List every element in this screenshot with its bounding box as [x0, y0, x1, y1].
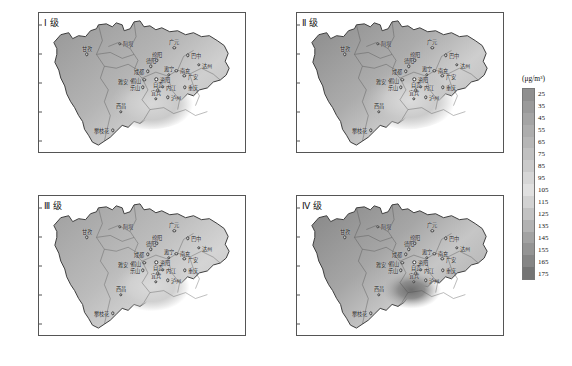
city-label: 达州: [460, 244, 470, 251]
panel-1: Ⅰ 级: [0, 0, 258, 183]
city-dot: [111, 312, 114, 315]
y-tick: 30°: [38, 78, 39, 87]
panel-4-plot: Ⅳ 级: [296, 195, 504, 336]
city-dot: [85, 53, 88, 56]
x-tick: 100°: [338, 152, 352, 153]
city-label: 成都: [134, 68, 144, 75]
city-dot: [172, 229, 175, 232]
x-tick: 102°: [368, 152, 382, 153]
city-label: 内江: [166, 267, 176, 274]
city-marker: 西昌: [377, 110, 380, 113]
city-label: 西昌: [374, 285, 384, 292]
city-label: 广安: [446, 72, 456, 79]
city-label: 重庆: [446, 84, 456, 91]
city-marker: 宜宾: [154, 280, 157, 283]
city-label: 巴中: [449, 52, 459, 59]
city-dot: [143, 261, 146, 264]
city-marker: 达州: [455, 63, 458, 66]
city-marker: 南充: [433, 69, 436, 72]
city-dot: [186, 237, 189, 240]
city-dot: [404, 253, 407, 256]
x-tick: 100°: [338, 335, 352, 336]
y-tick: 34°N: [38, 203, 39, 212]
figure-grid: Ⅰ 级: [0, 0, 572, 366]
colorbar-tick: 155: [538, 246, 549, 254]
city-label: 达州: [460, 61, 470, 68]
city-marker: 乐山: [141, 86, 144, 89]
city-label: 泸州: [171, 94, 181, 101]
colorbar-tick: 135: [538, 222, 549, 230]
city-label: 眉山: [131, 76, 141, 83]
city-marker: 眉山: [401, 261, 404, 264]
city-label: 泸州: [171, 277, 181, 284]
y-tick: 34°N: [38, 20, 39, 29]
city-dot: [399, 269, 402, 272]
city-label: 重庆: [188, 84, 198, 91]
city-label: 巴中: [191, 235, 201, 242]
city-label: 攀枝花: [94, 310, 109, 317]
city-dot: [401, 261, 404, 264]
city-marker: 眉山: [143, 261, 146, 264]
colorbar-swatch: [523, 160, 534, 172]
city-marker: 泸州: [166, 279, 169, 282]
colorbar-tick: 165: [538, 258, 549, 266]
city-dot: [146, 70, 149, 73]
x-tick: 110°E: [227, 335, 246, 336]
city-dot: [441, 257, 444, 260]
city-dot: [149, 65, 152, 68]
colorbar-swatch: [523, 267, 534, 279]
city-label: 巴中: [191, 52, 201, 59]
city-dot: [197, 246, 200, 249]
city-marker: 西昌: [119, 110, 122, 113]
city-label: 广元: [169, 38, 179, 45]
panel-3: Ⅲ 级: [0, 183, 258, 366]
city-label: 成都: [392, 68, 402, 75]
city-marker: 泸州: [424, 96, 427, 99]
city-label: 乐山: [130, 84, 140, 91]
city-marker: 广元: [430, 46, 433, 49]
city-label: 甘孜: [82, 228, 92, 235]
city-label: 广元: [427, 221, 437, 228]
city-marker: 重庆: [183, 269, 186, 272]
colorbar-unit-label: (μg/m³): [522, 74, 545, 83]
city-dot: [404, 70, 407, 73]
y-tick: 26°: [296, 136, 297, 145]
city-dot: [183, 86, 186, 89]
panel-3-label: Ⅲ 级: [44, 199, 63, 212]
city-dot: [154, 280, 157, 283]
city-dot: [183, 269, 186, 272]
city-dot: [119, 293, 122, 296]
city-dot: [186, 54, 189, 57]
city-dot: [118, 225, 121, 228]
y-tick: 26°: [38, 136, 39, 145]
city-label: 遬宁: [164, 249, 174, 256]
x-tick: 102°: [110, 152, 124, 153]
x-tick: 98°: [52, 152, 63, 153]
y-tick: 34°N: [296, 20, 297, 29]
city-marker: 南充: [175, 69, 178, 72]
colorbar-swatch: [523, 125, 534, 137]
colorbar-tick: 85: [538, 162, 545, 170]
city-label: 阿坝: [123, 40, 133, 47]
city-marker: 重庆: [183, 86, 186, 89]
colorbar-tick: 75: [538, 150, 545, 158]
x-tick: 98°: [310, 152, 321, 153]
y-tick: 30°: [296, 78, 297, 87]
city-label: 重庆: [188, 267, 198, 274]
y-tick: 28°: [296, 107, 297, 116]
city-marker: 泸州: [166, 96, 169, 99]
city-marker: 达州: [197, 246, 200, 249]
city-label: 广元: [169, 221, 179, 228]
colorbar-swatch: [523, 196, 534, 208]
colorbar-swatch: [523, 89, 534, 101]
city-label: 自贡: [411, 81, 421, 88]
city-dot: [149, 248, 152, 251]
city-label: 内江: [166, 84, 176, 91]
colorbar-swatch: [523, 184, 534, 196]
city-marker: 眉山: [401, 78, 404, 81]
city-marker: 德阳: [149, 248, 152, 251]
city-marker: 乐山: [141, 269, 144, 272]
city-marker: 阿坝: [118, 225, 121, 228]
city-marker: 甘孜: [343, 53, 346, 56]
city-label: 巴中: [449, 235, 459, 242]
